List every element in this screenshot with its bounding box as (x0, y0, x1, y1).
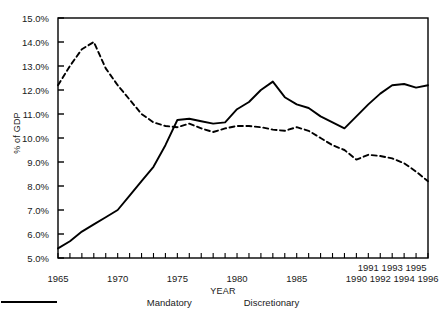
y-tick-label: 11.0% (23, 109, 50, 120)
x-tick-label: 1991 (358, 262, 379, 273)
series-line-mandatory (58, 82, 428, 249)
x-tick-label: 1995 (405, 262, 426, 273)
legend-item-mandatory: Mandatory (147, 297, 192, 308)
chart-plot: 15.0%14.0%13.0%12.0%11.0%10.0%9.0%8.0%7.… (0, 0, 446, 290)
y-tick-label: 5.0% (27, 253, 49, 264)
x-tick-label: 1992 (370, 273, 391, 284)
y-tick-label: 6.0% (27, 229, 49, 240)
x-tick-label: 1985 (286, 273, 307, 284)
y-tick-label: 7.0% (27, 205, 49, 216)
x-tick-label: 1965 (47, 273, 68, 284)
x-tick-label: 1994 (394, 273, 415, 284)
y-tick-label: 8.0% (27, 181, 49, 192)
legend-item-discretionary: Discretionary (244, 297, 299, 308)
x-tick-label: 1980 (226, 273, 247, 284)
y-tick-label: 12.0% (22, 85, 49, 96)
legend-label-mandatory: Mandatory (147, 297, 192, 308)
y-tick-label: 14.0% (22, 37, 49, 48)
plot-frame (58, 18, 428, 258)
x-tick-label: 1993 (382, 262, 403, 273)
y-tick-label: 13.0% (22, 61, 49, 72)
y-tick-label: 15.0% (22, 13, 49, 24)
chart-container: { "chart_data": { "type": "line", "title… (0, 0, 446, 319)
y-tick-label: 10.0% (22, 133, 49, 144)
y-tick-label: 9.0% (27, 157, 49, 168)
chart-legend: Mandatory Discretionary (0, 297, 446, 308)
legend-swatch-dashed-icon (0, 297, 58, 307)
legend-label-discretionary: Discretionary (244, 297, 299, 308)
x-tick-label: 1970 (107, 273, 128, 284)
x-tick-label: 1975 (167, 273, 188, 284)
series-line-discretionary (58, 42, 428, 181)
x-tick-label: 1990 (346, 273, 367, 284)
x-tick-label: 1996 (417, 273, 438, 284)
